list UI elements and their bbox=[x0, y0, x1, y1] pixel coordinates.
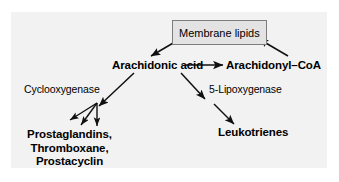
enzyme-cyclooxygenase-label: Cyclooxygenase bbox=[24, 83, 100, 95]
enzyme-lipoxygenase-label: 5-Lipoxygenase bbox=[209, 83, 282, 95]
node-cox-products-line-2: Thromboxane, bbox=[16, 142, 123, 156]
node-cox-products-line-1: Prostaglandins, bbox=[16, 128, 123, 142]
node-membrane-lipids-label: Membrane lipids bbox=[179, 27, 260, 39]
node-cox-products: Prostaglandins, Thromboxane, Prostacycli… bbox=[16, 128, 123, 169]
node-membrane-lipids: Membrane lipids bbox=[172, 20, 267, 45]
node-leukotrienes: Leukotrienes bbox=[218, 126, 288, 140]
node-arachidonyl-coa: Arachidonyl–CoA bbox=[226, 59, 321, 73]
figure-root: Membrane lipids Arachidonic acid Arachid… bbox=[0, 0, 339, 182]
node-arachidonic-acid: Arachidonic acid bbox=[112, 59, 203, 73]
node-cox-products-line-3: Prostacyclin bbox=[16, 155, 123, 169]
